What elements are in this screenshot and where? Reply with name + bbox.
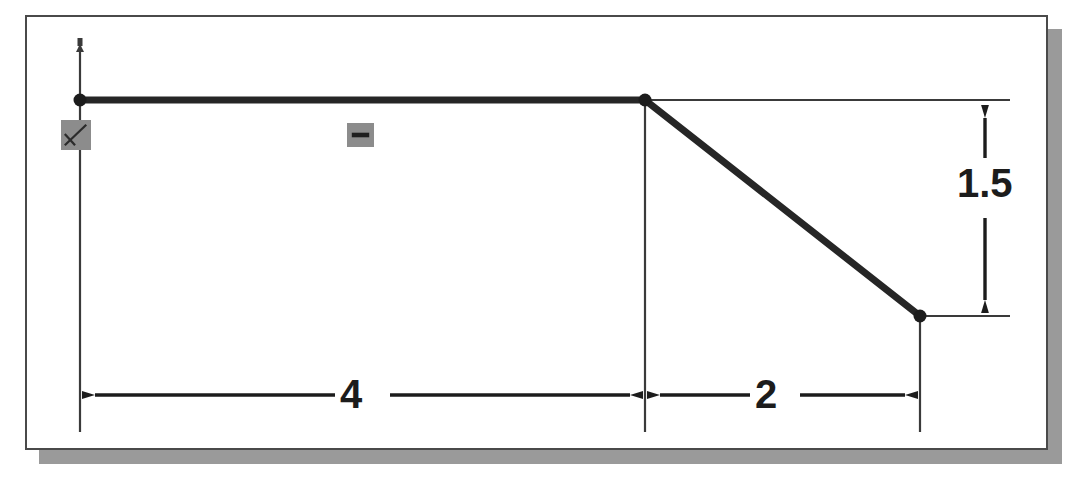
fix-anchor-icon[interactable] [61,120,91,150]
fix-anchor-glyph [62,121,90,149]
horizontal-glyph [348,124,373,146]
horizontal-icon[interactable] [347,123,374,147]
height-dimension-1point5-label[interactable]: 1.5 [957,161,1013,206]
sketch-window: 4 2 1.5 [0,0,1089,501]
width-dimension-2-label[interactable]: 2 [755,372,777,417]
width-dimension-4-label[interactable]: 4 [340,372,362,417]
sketch-panel[interactable] [25,15,1048,450]
